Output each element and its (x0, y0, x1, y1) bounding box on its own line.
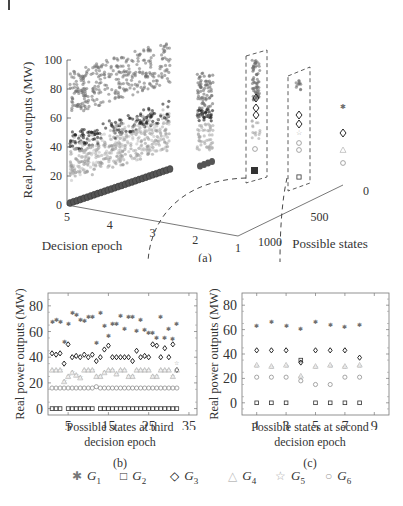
svg-text:Decision epoch: Decision epoch (42, 238, 123, 253)
svg-text:✱: ✱ (342, 324, 347, 330)
svg-text:60: 60 (223, 323, 237, 338)
legend-label: G1 (87, 468, 101, 486)
svg-text:80: 80 (29, 299, 43, 314)
svg-text:☆: ☆ (313, 364, 318, 370)
panel-b-xlabel-line1: Possible states at third (20, 420, 220, 435)
svg-text:✱: ✱ (62, 339, 67, 345)
legend-item-g5: ☆G5 (275, 468, 305, 486)
square-icon: □ (120, 469, 127, 484)
panel-b-xlabel-line2: decision epoch (20, 435, 220, 450)
hourglass-star-icon: ✱ (72, 469, 82, 484)
svg-text:100: 100 (44, 53, 62, 67)
svg-text:5: 5 (64, 210, 70, 224)
svg-text:0: 0 (363, 184, 369, 198)
svg-text:☆: ☆ (58, 367, 63, 373)
svg-text:✱: ✱ (284, 323, 289, 329)
svg-text:80: 80 (50, 82, 62, 96)
svg-text:☆: ☆ (130, 373, 135, 379)
legend-item-g6: ○G6 (325, 468, 351, 486)
svg-text:☆: ☆ (170, 373, 175, 379)
svg-text:✱: ✱ (102, 323, 107, 329)
panel-b-xlabel: Possible states at third decision epoch (20, 420, 220, 450)
svg-text:✱: ✱ (174, 321, 179, 327)
svg-text:2: 2 (192, 233, 198, 247)
svg-text:✱: ✱ (118, 313, 123, 319)
svg-text:20: 20 (223, 371, 237, 386)
svg-text:☆: ☆ (146, 367, 151, 373)
svg-text:✱: ✱ (122, 326, 127, 332)
svg-text:✱: ✱ (90, 314, 95, 320)
svg-text:☆: ☆ (284, 363, 289, 369)
svg-text:4: 4 (107, 218, 113, 232)
panel-a-3d-scatter: 020406080100 54321 10005000 ☆✱ Real powe… (0, 0, 403, 262)
svg-text:☆: ☆ (357, 363, 362, 369)
svg-text:✱: ✱ (166, 326, 171, 332)
svg-text:20: 20 (29, 376, 43, 391)
svg-text:☆: ☆ (122, 367, 127, 373)
svg-text:Real power outputs (MW): Real power outputs (MW) (20, 62, 35, 199)
svg-text:☆: ☆ (296, 129, 302, 136)
svg-text:60: 60 (29, 325, 43, 340)
svg-text:✱: ✱ (154, 335, 159, 341)
svg-text:✱: ✱ (328, 322, 333, 328)
svg-text:✱: ✱ (340, 103, 346, 110)
svg-text:✱: ✱ (114, 321, 119, 327)
panel-c-xlabel: Possible states at second decision epoch (210, 420, 403, 450)
svg-text:✱: ✱ (254, 323, 259, 329)
svg-text:✱: ✱ (138, 317, 143, 323)
legend-label: G4 (242, 468, 256, 486)
legend-label: G2 (132, 468, 146, 486)
diamond-icon: ◇ (170, 469, 179, 484)
svg-text:✱: ✱ (158, 314, 163, 320)
circle-icon: ○ (325, 469, 332, 484)
svg-text:☆: ☆ (328, 363, 333, 369)
legend-item-g3: ◇G3 (170, 468, 198, 486)
svg-text:✱: ✱ (313, 319, 318, 325)
svg-text:✱: ✱ (269, 319, 274, 325)
svg-text:☆: ☆ (166, 367, 171, 373)
svg-text:0: 0 (230, 396, 237, 411)
legend-item-g1: ✱G1 (72, 468, 101, 486)
panel-b-scatter: 0204060805152535Real power outputs (MW)✱… (0, 260, 210, 430)
svg-text:✱: ✱ (162, 335, 167, 341)
svg-text:80: 80 (223, 298, 237, 313)
svg-text:500: 500 (311, 210, 329, 224)
svg-text:☆: ☆ (154, 373, 159, 379)
svg-text:☆: ☆ (62, 378, 67, 384)
legend-item-g2: □G2 (120, 468, 146, 486)
svg-text:✱: ✱ (106, 333, 111, 339)
svg-text:Real power outputs (MW): Real power outputs (MW) (13, 288, 27, 420)
triangle-icon: △ (228, 469, 237, 484)
svg-text:✱: ✱ (134, 328, 139, 334)
panel-c-scatter: 02040608013579Real power outputs (MW)✱✱✱… (205, 260, 403, 430)
panel-c-xlabel-line2: decision epoch (210, 435, 403, 450)
svg-text:0: 0 (56, 198, 62, 212)
svg-text:☆: ☆ (174, 360, 179, 366)
svg-text:40: 40 (29, 350, 43, 365)
svg-text:✱: ✱ (298, 326, 303, 332)
svg-text:☆: ☆ (78, 374, 83, 380)
legend-item-g4: △G4 (228, 468, 256, 486)
svg-text:60: 60 (50, 111, 62, 125)
svg-text:✱: ✱ (66, 321, 71, 327)
svg-text:☆: ☆ (269, 364, 274, 370)
legend: ✱G1□G2◇G3△G4☆G5○G6 (0, 468, 403, 488)
svg-text:☆: ☆ (342, 364, 347, 370)
star-icon: ☆ (275, 469, 286, 484)
svg-text:Possible states: Possible states (292, 236, 367, 251)
svg-text:1: 1 (235, 241, 241, 255)
svg-text:20: 20 (50, 169, 62, 183)
legend-label: G3 (184, 468, 198, 486)
svg-text:☆: ☆ (90, 367, 95, 373)
svg-text:✱: ✱ (94, 340, 99, 346)
panel-c-xlabel-line1: Possible states at second (210, 420, 403, 435)
legend-label: G5 (291, 468, 305, 486)
svg-text:1000: 1000 (258, 235, 282, 249)
svg-text:40: 40 (223, 347, 237, 362)
svg-text:✱: ✱ (98, 310, 103, 316)
svg-text:✱: ✱ (357, 322, 362, 328)
svg-text:40: 40 (50, 140, 62, 154)
svg-text:✱: ✱ (58, 319, 63, 325)
legend-label: G6 (337, 468, 351, 486)
svg-text:☆: ☆ (254, 363, 259, 369)
